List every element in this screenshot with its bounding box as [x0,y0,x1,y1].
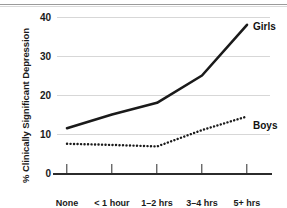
y-tick-label-0: 0 [45,168,51,179]
series-layer [57,17,270,173]
y-tick-label-30: 30 [40,51,51,62]
x-axis-baseline [53,173,272,175]
page-rule-top [0,4,287,5]
y-tick-label-10: 10 [40,129,51,140]
x-tick-label-none: None [56,198,79,208]
page-rule-top-secondary [0,6,287,7]
x-tick-label-5plus: 5+ hrs [234,198,261,208]
y-axis-title: % Clinically Significant Depression [20,11,31,201]
y-tick-label-20: 20 [40,90,51,101]
x-tick-label-lt1hour: < 1 hour [94,198,129,208]
x-tick-label-3-4hrs: 3–4 hrs [186,198,218,208]
x-tick-label-1-2hrs: 1–2 hrs [141,198,173,208]
series-label-boys: Boys [253,120,277,131]
series-line-girls [67,25,247,128]
depression-screen-time-line-chart: % Clinically Significant Depression 40 3… [0,0,287,208]
series-label-girls: Girls [253,21,276,32]
y-tick-label-40: 40 [40,12,51,23]
plot-area: 40 30 20 10 0 None < 1 hour 1–2 hrs 3–4 … [57,17,270,173]
